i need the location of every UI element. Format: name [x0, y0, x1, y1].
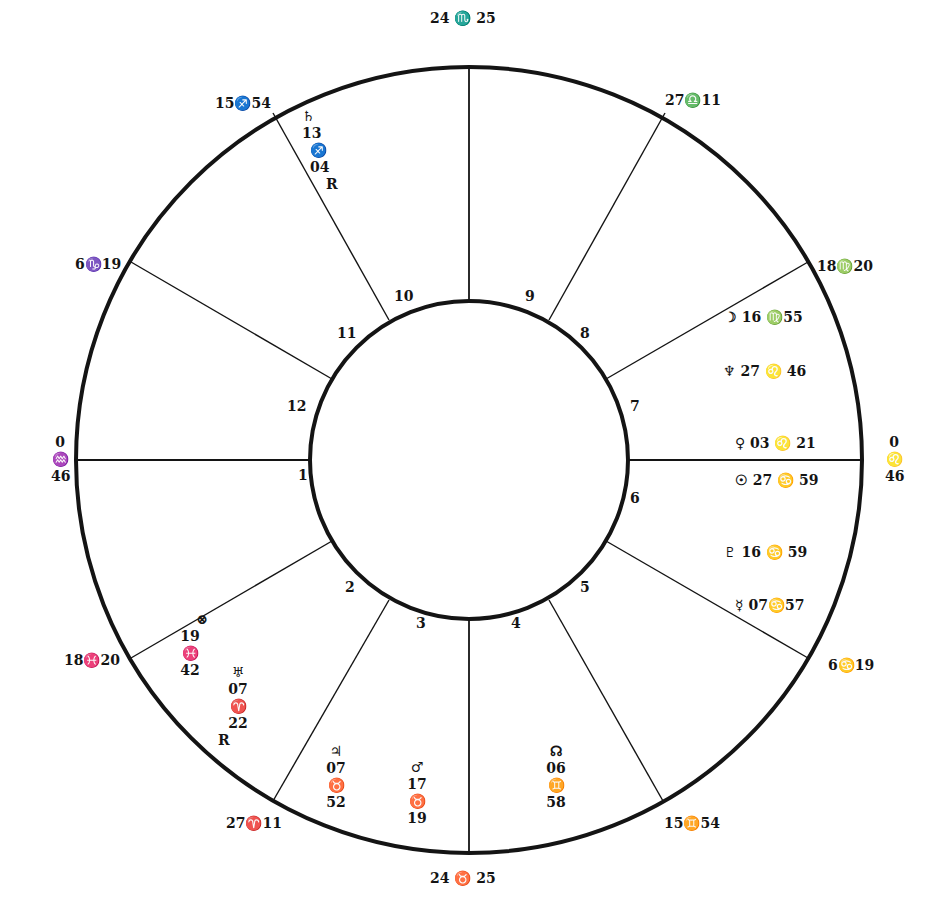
house-number-8: 8 — [580, 325, 590, 341]
house-number-7: 7 — [630, 398, 640, 414]
inner-circle — [310, 301, 628, 619]
planet-moon: ☽ 16 ♍55 — [724, 309, 803, 325]
house-number-3: 3 — [416, 615, 426, 631]
house-number-9: 9 — [525, 288, 535, 304]
cusp-label-6: 6♋19 — [828, 657, 874, 673]
planet-pluto: ♇ 16 ♋ 59 — [724, 544, 807, 560]
cusp-line-9 — [549, 113, 665, 320]
cusp-label-9: 27♎11 — [665, 92, 721, 108]
cusp-line-2 — [131, 541, 332, 658]
house-number-10: 10 — [394, 288, 413, 304]
cusp-label-5: 15♊54 — [664, 815, 720, 831]
cusp-label-mc: 24 ♏ 25 — [430, 10, 496, 26]
planet-sun: ☉ 27 ♋ 59 — [735, 472, 819, 488]
cusp-label-8: 18♍20 — [817, 258, 873, 274]
planet-mars: ♂ 17 ♉ 19 — [403, 759, 431, 827]
cusp-label-asc: 0 ♒ 46 — [51, 434, 69, 485]
cusp-label-3: 27♈11 — [226, 815, 282, 831]
cusp-line-12 — [131, 262, 332, 379]
cusp-label-11: 15♐54 — [215, 95, 271, 111]
cusp-label-ic: 24 ♉ 25 — [430, 870, 496, 886]
cusp-label-12: 6♑19 — [75, 256, 121, 272]
planet-part-of-fortune: ⊗ 19 ♓ 42 — [172, 611, 208, 679]
house-number-5: 5 — [580, 579, 590, 595]
planet-neptune: ♆ 27 ♌ 46 — [723, 363, 806, 379]
house-number-2: 2 — [345, 579, 355, 595]
house-number-4: 4 — [511, 615, 521, 631]
planet-venus: ♀ 03 ♌ 21 — [735, 435, 816, 451]
house-number-6: 6 — [630, 490, 640, 506]
house-number-11: 11 — [337, 325, 356, 341]
house-number-1: 1 — [298, 467, 308, 483]
planet-north-node: ☊ 06 ♊ 58 — [542, 743, 570, 811]
house-number-12: 12 — [287, 398, 306, 414]
planet-uranus: ♅ 07 ♈ 22 R — [224, 664, 252, 749]
planet-saturn: ♄ 13 ♐ 04 R — [296, 108, 336, 193]
planet-jupiter: ♃ 07 ♉ 52 — [322, 743, 350, 811]
cusp-label-7: 0 ♌ 46 — [885, 434, 903, 485]
planet-mercury: ☿ 07♋57 — [735, 597, 804, 613]
chart-wheel — [0, 0, 940, 910]
cusp-label-2: 18♓20 — [64, 652, 120, 668]
